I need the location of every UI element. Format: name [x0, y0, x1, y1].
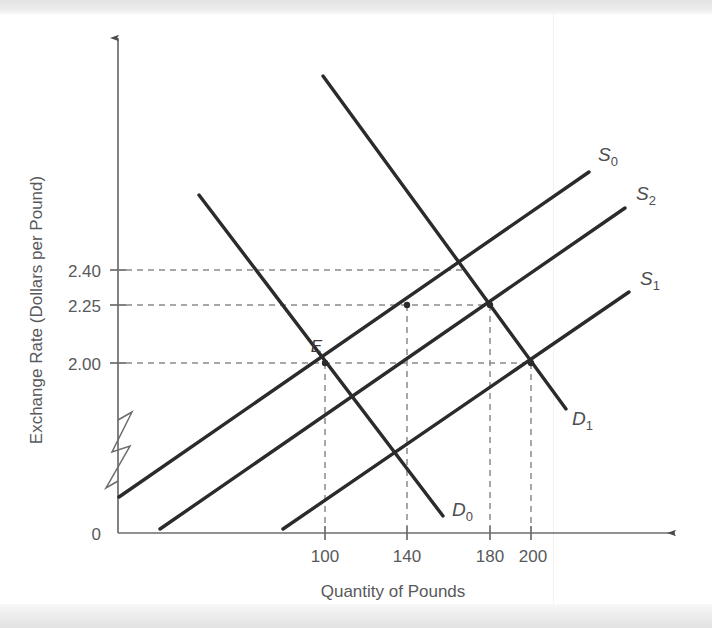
- x-tick-label-200: 200: [519, 547, 547, 566]
- curve-label-s0: S0: [598, 144, 618, 169]
- y-tick-label-225: 2.25: [68, 297, 101, 316]
- figure-canvas: 2.40 2.25 2.00 0 100 140 180 200 Exchang…: [0, 0, 712, 628]
- x-tick-label-100: 100: [311, 547, 339, 566]
- point-equilibrium-e: [322, 360, 328, 366]
- y-tick-label-200: 2.00: [68, 355, 101, 374]
- x-tick-label-180: 180: [476, 547, 504, 566]
- curve-d1: [323, 76, 566, 409]
- y-tick-label-240: 2.40: [68, 262, 101, 281]
- x-axis-title: Quantity of Pounds: [321, 582, 466, 601]
- curve-label-d1: D1: [572, 408, 593, 433]
- y-axis-title: Exchange Rate (Dollars per Pound): [27, 176, 46, 444]
- curve-s2: [160, 208, 625, 529]
- exchange-rate-supply-demand-chart: 2.40 2.25 2.00 0 100 140 180 200 Exchang…: [0, 0, 712, 628]
- x-tick-label-140: 140: [393, 547, 421, 566]
- y-axis-break-symbol: [106, 412, 132, 488]
- point-140-225: [404, 302, 410, 308]
- curve-label-d0: D0: [452, 499, 473, 524]
- point-180-225: [487, 302, 493, 308]
- curve-label-s1: S1: [640, 268, 660, 293]
- equilibrium-point-label: E: [311, 337, 323, 356]
- curve-s0: [119, 172, 589, 497]
- point-200-200: [528, 360, 534, 366]
- y-origin-label: 0: [92, 525, 101, 544]
- curve-label-s2: S2: [636, 183, 656, 208]
